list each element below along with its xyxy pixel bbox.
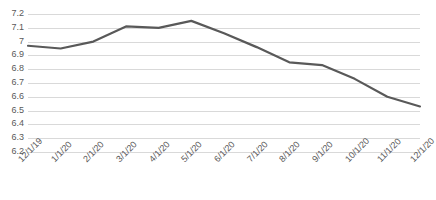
x-axis-tick-label: 12/1/19	[16, 136, 44, 164]
x-axis-tick-label: 10/1/20	[343, 136, 371, 164]
x-axis-tick-label: 8/1/20	[277, 139, 302, 164]
x-axis-tick-label: 3/1/20	[114, 139, 139, 164]
x-axis-tick-label: 9/1/20	[310, 139, 335, 164]
x-axis-tick-label: 1/1/20	[49, 139, 74, 164]
x-axis-tick-label: 7/1/20	[245, 139, 270, 164]
x-axis-tick-label: 5/1/20	[179, 139, 204, 164]
x-axis-tick-label: 12/1/20	[408, 136, 436, 164]
x-axis-tick-label: 11/1/20	[375, 136, 403, 164]
x-axis-tick-label: 2/1/20	[81, 139, 106, 164]
x-axis-tick-label: 4/1/20	[147, 139, 172, 164]
x-axis-tick-label: 6/1/20	[212, 139, 237, 164]
